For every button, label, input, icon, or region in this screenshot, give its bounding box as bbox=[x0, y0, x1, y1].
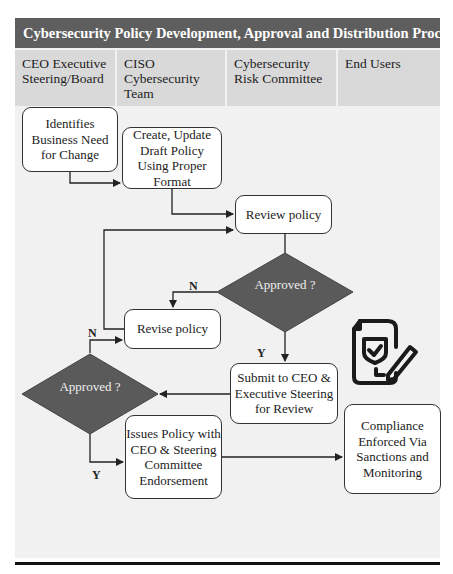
node-create-draft: Create, Update Draft Policy Using Proper… bbox=[122, 127, 222, 189]
edge-label-d2-yes: Y bbox=[92, 468, 101, 483]
node-compliance: Compliance Enforced Via Sanctions and Mo… bbox=[344, 404, 441, 494]
node-revise-policy: Revise policy bbox=[124, 309, 221, 349]
decision-2-label: Approved ? bbox=[50, 379, 130, 394]
decision-diamond-1 bbox=[217, 253, 353, 332]
node-identify-need: Identifies Business Need for Change bbox=[22, 107, 118, 172]
decision-1-label: Approved ? bbox=[245, 277, 325, 292]
edge-label-d1-yes: Y bbox=[257, 346, 266, 361]
node-issue-policy: Issues Policy with CEO & Steering Commit… bbox=[125, 415, 222, 499]
node-submit-ceo: Submit to CEO & Executive Steering for R… bbox=[230, 363, 338, 424]
bottom-rule bbox=[15, 562, 440, 565]
policy-document-check-pen-icon bbox=[350, 317, 420, 387]
edge-label-d2-no: N bbox=[88, 326, 97, 341]
node-review-policy: Review policy bbox=[235, 195, 332, 234]
edge-label-d1-no: N bbox=[189, 279, 198, 294]
